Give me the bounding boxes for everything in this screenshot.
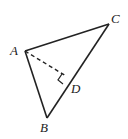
label-c: C bbox=[111, 11, 120, 26]
triangle-diagram: A B C D bbox=[0, 0, 128, 139]
right-angle-mark bbox=[58, 74, 63, 84]
label-b: B bbox=[40, 120, 48, 135]
segment-ac bbox=[25, 24, 109, 51]
label-d: D bbox=[70, 81, 81, 96]
segment-bc bbox=[47, 24, 109, 118]
segment-ab bbox=[25, 51, 47, 118]
label-a: A bbox=[9, 43, 18, 58]
